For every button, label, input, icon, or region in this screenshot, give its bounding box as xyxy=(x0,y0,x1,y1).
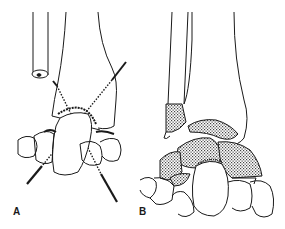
illustration xyxy=(0,0,285,229)
panel-label-a: A xyxy=(13,206,20,217)
panel-label-b: B xyxy=(139,206,146,217)
panel-b-drawing xyxy=(140,12,274,217)
panel-a-drawing xyxy=(18,12,126,202)
figure-canvas: A B xyxy=(0,0,285,229)
